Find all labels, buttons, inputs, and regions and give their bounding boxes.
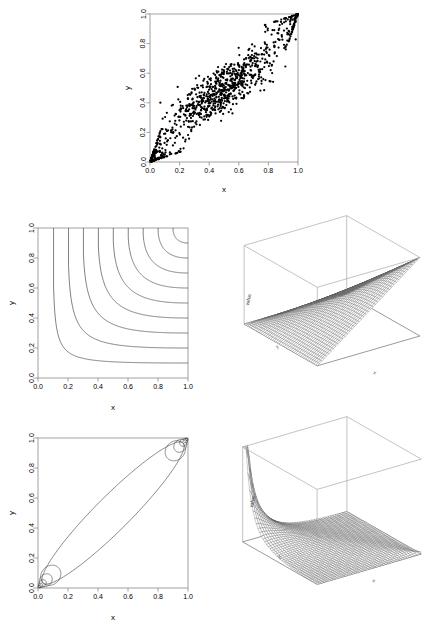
density-perspective-x-title: x [371,577,376,584]
cdf-perspective-x-title: x [372,369,377,376]
svg-text:0.6: 0.6 [140,68,147,78]
svg-text:1.0: 1.0 [183,383,193,390]
cdf-perspective-surface [244,216,420,366]
svg-text:0.0: 0.0 [140,157,147,167]
cdf-contour-y-title: y [7,301,16,305]
scatter-points [149,13,299,163]
svg-text:0.2: 0.2 [28,553,35,563]
svg-text:1.0: 1.0 [28,433,35,443]
copula-figure: 0.00.20.40.60.81.0 0.00.20.40.60.81.0 x … [0,0,437,633]
svg-text:0.4: 0.4 [204,167,214,174]
svg-text:0.0: 0.0 [145,167,155,174]
svg-text:0.6: 0.6 [28,283,35,293]
cdf-contour-y-axis: 0.00.20.40.60.81.0 [28,223,39,383]
svg-text:0.4: 0.4 [28,523,35,533]
svg-text:0.8: 0.8 [28,253,35,263]
svg-text:0.2: 0.2 [63,593,73,600]
panel-scatter: 0.00.20.40.60.81.0 0.00.20.40.60.81.0 x … [122,2,322,202]
svg-text:0.8: 0.8 [264,167,274,174]
density-contour-lines [38,438,188,588]
svg-text:0.6: 0.6 [28,493,35,503]
cdf-contour-lines [54,228,188,363]
density-contour-x-title: x [111,613,115,622]
density-perspective-surface [243,417,422,585]
svg-text:0.8: 0.8 [153,383,163,390]
density-contour-y-axis: 0.00.20.40.60.81.0 [28,433,39,593]
svg-text:1.0: 1.0 [293,167,303,174]
density-contour-x-axis: 0.00.20.40.60.81.0 [33,588,193,600]
svg-text:0.2: 0.2 [28,343,35,353]
density-contour-y-title: y [7,511,16,515]
svg-text:0.4: 0.4 [140,98,147,108]
cdf-contour-x-title: x [111,403,115,412]
cdf-contour-x-axis: 0.00.20.40.60.81.0 [33,378,193,390]
svg-text:0.8: 0.8 [153,593,163,600]
svg-text:0.4: 0.4 [93,593,103,600]
svg-text:0.6: 0.6 [234,167,244,174]
scatter-y-title: y [123,86,132,90]
svg-text:0.2: 0.2 [175,167,185,174]
panel-density-contour: 0.00.20.40.60.81.0 0.00.20.40.60.81.0 x … [4,428,216,631]
svg-text:0.0: 0.0 [33,383,43,390]
svg-text:0.4: 0.4 [28,313,35,323]
svg-text:0.6: 0.6 [123,383,133,390]
scatter-y-axis: 0.00.20.40.60.81.0 [140,9,151,167]
svg-text:0.8: 0.8 [28,463,35,473]
scatter-x-axis: 0.00.20.40.60.81.0 [145,162,303,174]
svg-text:0.0: 0.0 [28,583,35,593]
svg-text:1.0: 1.0 [28,223,35,233]
svg-text:0.8: 0.8 [140,39,147,49]
svg-text:0.4: 0.4 [93,383,103,390]
svg-text:0.0: 0.0 [33,593,43,600]
svg-text:1.0: 1.0 [140,9,147,19]
panel-density-perspective: value y x [228,430,433,630]
svg-text:0.2: 0.2 [63,383,73,390]
cdf-perspective-z-title: value [244,293,252,306]
panel-cdf-contour: 0.00.20.40.60.81.0 0.00.20.40.60.81.0 x … [4,218,216,423]
svg-text:1.0: 1.0 [183,593,193,600]
svg-text:0.0: 0.0 [28,373,35,383]
panel-cdf-perspective: value y x [228,222,433,420]
svg-text:0.6: 0.6 [123,593,133,600]
svg-text:0.2: 0.2 [140,127,147,137]
scatter-x-title: x [222,185,226,194]
density-contour-box [38,438,188,588]
